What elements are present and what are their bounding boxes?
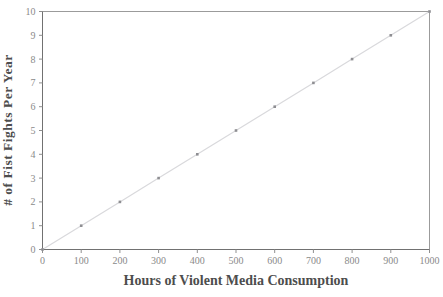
- y-tick-label: 5: [31, 125, 36, 136]
- data-point-marker: [80, 224, 83, 227]
- y-tick-label: 8: [31, 54, 36, 65]
- x-tick-label: 200: [112, 255, 127, 266]
- data-point-marker: [41, 248, 44, 251]
- data-point-marker: [196, 153, 199, 156]
- y-axis-title: # of Fist Fights Per Year: [0, 54, 15, 206]
- line-chart: 0100200300400500600700800900100001234567…: [0, 0, 443, 297]
- y-tick-label: 9: [31, 30, 36, 41]
- y-tick-label: 6: [31, 101, 36, 112]
- x-tick-label: 100: [74, 255, 89, 266]
- y-tick-label: 2: [31, 196, 36, 207]
- x-tick-label: 600: [267, 255, 282, 266]
- x-tick-label: 500: [229, 255, 244, 266]
- x-tick-label: 300: [151, 255, 166, 266]
- y-tick-label: 4: [31, 149, 36, 160]
- data-point-marker: [390, 34, 393, 37]
- x-tick-label: 0: [40, 255, 45, 266]
- x-tick-label: 900: [383, 255, 398, 266]
- y-tick-label: 3: [31, 173, 36, 184]
- x-tick-label: 400: [190, 255, 205, 266]
- chart-container: 0100200300400500600700800900100001234567…: [0, 0, 443, 297]
- data-point-marker: [235, 129, 238, 132]
- x-tick-label: 800: [345, 255, 360, 266]
- x-tick-label: 1000: [420, 255, 440, 266]
- y-tick-label: 0: [31, 244, 36, 255]
- data-point-marker: [428, 10, 431, 13]
- data-point-marker: [273, 105, 276, 108]
- y-tick-label: 10: [26, 6, 36, 17]
- y-tick-label: 7: [31, 77, 36, 88]
- data-point-marker: [119, 201, 122, 204]
- y-tick-label: 1: [31, 220, 36, 231]
- x-axis-title: Hours of Violent Media Consumption: [124, 273, 349, 288]
- x-tick-label: 700: [306, 255, 321, 266]
- data-point-marker: [312, 82, 315, 85]
- data-point-marker: [351, 58, 354, 61]
- data-point-marker: [157, 177, 160, 180]
